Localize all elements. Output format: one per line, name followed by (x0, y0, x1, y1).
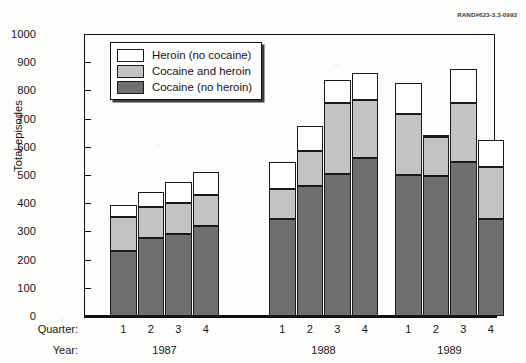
bar-segment (395, 175, 422, 316)
legend-item: Cocaine (no heroin) (117, 79, 252, 95)
legend-label: Heroin (no cocaine) (152, 49, 251, 61)
bar-segment (269, 162, 296, 189)
bar-segment (110, 205, 137, 218)
y-axis-tick-mark (84, 175, 91, 176)
bar-segment (450, 103, 477, 162)
y-axis-tick-label: 700 (17, 113, 36, 125)
legend-item: Heroin (no cocaine) (117, 47, 252, 63)
bar-segment (138, 207, 165, 238)
bar-segment (193, 226, 220, 316)
bar-segment (478, 140, 505, 167)
y-axis-tick-mark (84, 90, 91, 91)
x-axis: Quarter:Year:123419871234198812341989 (0, 316, 526, 363)
bar-segment (269, 189, 296, 219)
y-axis-tick-label: 800 (17, 84, 36, 96)
legend-label: Cocaine and heroin (152, 65, 251, 77)
y-axis-tick-label: 100 (17, 282, 36, 294)
y-axis-tick-mark (84, 203, 91, 204)
bar-segment (324, 80, 351, 103)
stacked-bar (269, 162, 296, 316)
stacked-bar (193, 172, 220, 316)
bar-segment (165, 234, 192, 316)
legend-swatch-cocaine_no_heroin (117, 81, 144, 94)
bar-segment (165, 182, 192, 203)
bar-segment (324, 174, 351, 316)
quarter-tick-label: 4 (203, 323, 209, 335)
legend-swatch-heroin_no_cocaine (117, 49, 144, 62)
y-axis-tick-label: 600 (17, 141, 36, 153)
bar-segment (423, 137, 450, 176)
year-tick-label: 1988 (311, 344, 335, 356)
rand-document-code: RAND#623-3.3-0993 (457, 11, 517, 18)
stacked-bar (110, 205, 137, 316)
y-axis-tick-label: 900 (17, 56, 36, 68)
bar-segment (165, 203, 192, 234)
legend-swatch-cocaine_and_heroin (117, 65, 144, 78)
stacked-bar (138, 192, 165, 316)
stacked-bar (450, 69, 477, 316)
quarter-tick-label: 4 (488, 323, 494, 335)
legend-label: Cocaine (no heroin) (152, 81, 252, 93)
quarter-tick-label: 3 (175, 323, 181, 335)
year-tick-label: 1989 (437, 344, 461, 356)
bar-segment (352, 100, 379, 158)
quarter-tick-label: 2 (307, 323, 313, 335)
y-axis-tick-label: 300 (17, 225, 36, 237)
quarter-tick-label: 1 (279, 323, 285, 335)
bar-segment (352, 73, 379, 100)
y-axis-tick-label: 400 (17, 197, 36, 209)
quarter-tick-label: 3 (460, 323, 466, 335)
stacked-bar (165, 182, 192, 316)
bar-segment (138, 192, 165, 208)
bar-segment (423, 176, 450, 316)
year-tick-label: 1987 (152, 344, 176, 356)
chart-legend: Heroin (no cocaine)Cocaine and heroinCoc… (110, 42, 262, 100)
stacked-bar (478, 140, 505, 316)
bar-segment (297, 126, 324, 151)
quarter-tick-label: 3 (334, 323, 340, 335)
y-axis-tick-label: 500 (17, 169, 36, 181)
bar-segment (324, 103, 351, 174)
bar-segment (423, 135, 450, 137)
y-axis-tick-mark (84, 119, 91, 120)
y-axis-tick-mark (84, 288, 91, 289)
quarter-tick-label: 1 (120, 323, 126, 335)
bar-segment (297, 186, 324, 316)
y-axis-tick-mark (84, 62, 91, 63)
bar-segment (110, 251, 137, 316)
bar-segment (478, 219, 505, 316)
stacked-bar (352, 73, 379, 316)
bar-segment (352, 158, 379, 316)
quarter-tick-label: 4 (362, 323, 368, 335)
y-axis: Total episodes 0100200300400500600700800… (0, 0, 84, 340)
quarter-tick-label: 2 (433, 323, 439, 335)
y-axis-tick-mark (84, 260, 91, 261)
bar-segment (269, 219, 296, 316)
y-axis-tick-label: 1000 (11, 28, 36, 40)
stacked-bar (395, 83, 422, 316)
legend-item: Cocaine and heroin (117, 63, 252, 79)
stacked-bar (324, 80, 351, 316)
quarter-tick-label: 2 (148, 323, 154, 335)
bar-segment (450, 162, 477, 316)
bar-segment (297, 151, 324, 186)
bar-segment (138, 238, 165, 316)
year-row-title: Year: (0, 344, 78, 356)
quarter-tick-label: 1 (405, 323, 411, 335)
bar-segment (193, 172, 220, 195)
y-axis-tick-label: 200 (17, 254, 36, 266)
stacked-bar (423, 136, 450, 316)
bar-segment (395, 83, 422, 115)
bar-segment (395, 114, 422, 175)
stacked-bar (297, 126, 324, 316)
y-axis-tick-mark (84, 231, 91, 232)
quarter-row-title: Quarter: (0, 323, 78, 335)
bar-segment (193, 195, 220, 226)
bar-segment (110, 217, 137, 251)
bar-segment (450, 69, 477, 103)
bar-segment (478, 167, 505, 219)
y-axis-tick-mark (84, 147, 91, 148)
